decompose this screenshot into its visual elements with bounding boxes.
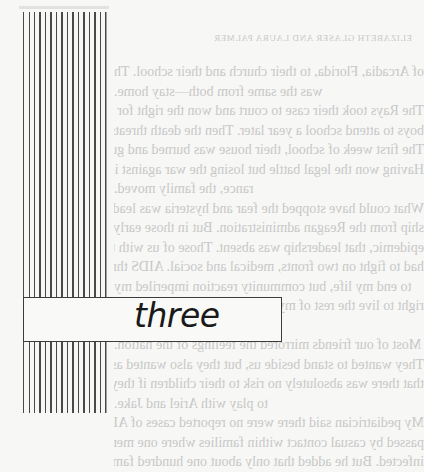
body-line: My pediatrician said there were no repor…: [114, 413, 424, 433]
body-line: Having won the legal battle but losing t…: [114, 160, 424, 180]
body-line: ship from the Reagan administration. But…: [114, 218, 424, 238]
chapter-title-box: three: [23, 297, 282, 342]
ornament-right-rule: [106, 12, 107, 413]
body-line: The first week of school, their house wa…: [114, 140, 424, 160]
body-line: The Rays took their case to court and wo…: [114, 101, 424, 121]
body-line: passed by casual contact within families…: [114, 433, 424, 453]
body-line: They wanted to stand beside us, but they…: [114, 355, 424, 375]
body-line: to play with Ariel and Jake.: [114, 394, 424, 414]
body-line: of Arcadia, Florida, to their church and…: [114, 62, 424, 82]
ornament-top-edge: [19, 6, 109, 9]
vertical-stripe-ornament: [23, 12, 106, 413]
body-line: epidemic, that leadership was absent. Th…: [114, 238, 424, 258]
body-text: of Arcadia, Florida, to their church and…: [114, 62, 424, 472]
running-head: ELIZABETH GLASER AND LAURA PALMER: [112, 33, 412, 47]
body-line: What could have stopped the fear and hys…: [114, 199, 424, 219]
body-line: that there was absolutely no risk to the…: [114, 374, 424, 394]
body-line: had to fight on two fronts, medical and …: [114, 257, 424, 277]
body-line: rance, the family moved.: [114, 179, 424, 199]
body-line: to end my life, but community reaction i…: [114, 277, 424, 297]
body-line: infected. But he added that only about o…: [114, 452, 424, 472]
chapter-title: three: [134, 296, 220, 335]
body-line: was the same from both—stay home.: [114, 82, 424, 102]
body-line: boys to attend school a year later. Then…: [114, 121, 424, 141]
